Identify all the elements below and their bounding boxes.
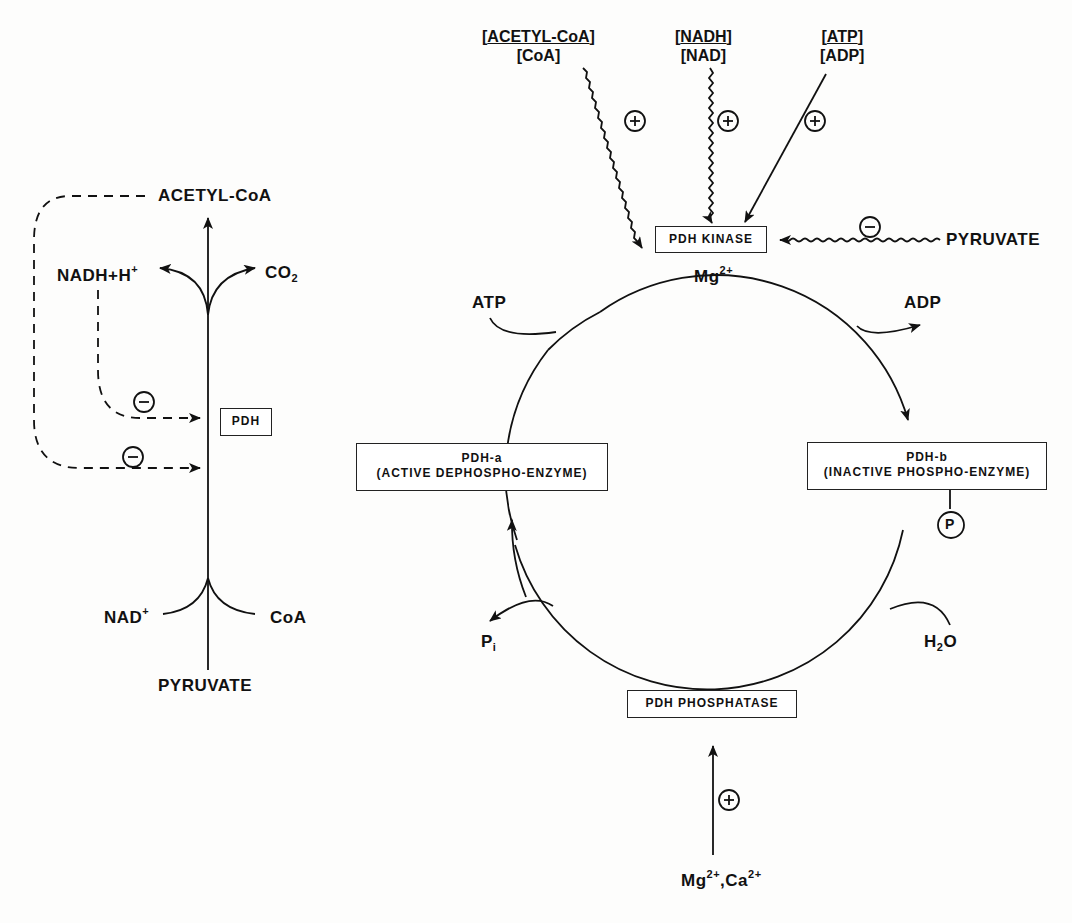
pdh-a-box: PDH-a(ACTIVE DEPHOSPHO-ENZYME) <box>356 443 608 491</box>
co2-label: CO2 <box>265 263 298 284</box>
pdh-phosphatase-box: PDH PHOSPHATASE <box>627 690 797 718</box>
nad-label: NAD+ <box>104 605 149 628</box>
nadh-label: NADH+H+ <box>57 263 138 286</box>
pyruvate-inhibitor-label: PYRUVATE <box>946 230 1040 250</box>
atp-label: ATP <box>472 293 506 313</box>
atp-adp-ratio: [ATP][ADP] <box>820 27 864 65</box>
pdh-b-box: PDH-b(INACTIVE PHOSPHO-ENZYME) <box>807 442 1047 490</box>
pdh-kinase-box: PDH KINASE <box>655 226 767 253</box>
acetylcoa-coa-ratio: [ACETYL-CoA][CoA] <box>482 27 595 65</box>
mg-cofactor-label: Mg2+ <box>694 264 733 287</box>
phosphate-tag-label: P <box>945 516 955 532</box>
acetyl-coa-label: ACETYL-CoA <box>158 186 272 206</box>
pi-label: Pi <box>481 632 496 653</box>
pdh-enzyme-box: PDH <box>220 408 272 436</box>
adp-label: ADP <box>904 293 941 313</box>
coa-label: CoA <box>270 608 306 628</box>
mg-ca-activator-label: Mg2+,Ca2+ <box>681 868 762 891</box>
water-label: H2O <box>924 632 957 653</box>
pyruvate-label: PYRUVATE <box>158 676 252 696</box>
nadh-nad-ratio: [NADH][NAD] <box>675 27 732 65</box>
